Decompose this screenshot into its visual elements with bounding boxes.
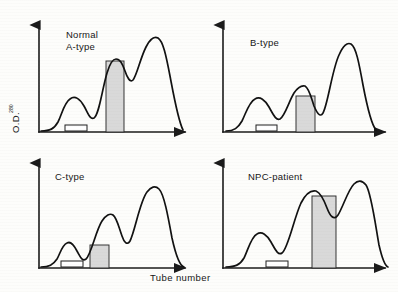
- panel1-label-line2: A-type: [66, 41, 95, 52]
- figure-background: [0, 0, 398, 292]
- panel4-marker-box: [266, 261, 288, 267]
- panel1-marker-box: [65, 125, 87, 131]
- figure-root: O.D. 280 Normal A-type B-type: [0, 0, 398, 292]
- elution-profile-figure: O.D. 280 Normal A-type B-type: [0, 0, 398, 292]
- panel3-label: C-type: [55, 171, 84, 182]
- panel4-hatched-fraction: [312, 196, 336, 268]
- panel1-hatched-fraction: [106, 61, 124, 132]
- y-axis-subscript: 280: [8, 104, 14, 113]
- panel2-marker-box: [256, 125, 277, 131]
- panel3-hatched-fraction: [90, 245, 109, 268]
- panel2-label: B-type: [250, 37, 279, 48]
- y-axis-label: O.D.: [10, 112, 21, 133]
- panel3-marker-box: [61, 261, 83, 267]
- panel1-label-line1: Normal: [66, 29, 98, 40]
- panel4-label: NPC-patient: [248, 171, 303, 182]
- x-axis-label: Tube number: [150, 272, 211, 283]
